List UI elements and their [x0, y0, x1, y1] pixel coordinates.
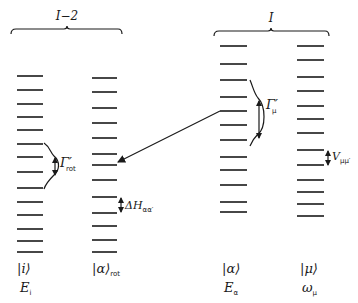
energy-alpha-label: Eα	[223, 280, 239, 297]
gamma-rot-label: Γ′rot	[59, 155, 76, 173]
brace-group-i-minus-2: I−2	[11, 9, 122, 34]
brace-group-i: I	[214, 11, 329, 36]
level-column-alpha-rot	[92, 78, 117, 252]
ket-i-label: |i⟩	[17, 261, 31, 276]
delta-h-label: ΔHαα′	[124, 199, 154, 214]
delta-h-spacing: ΔHαα′	[121, 198, 154, 214]
omega-mu-label: ωμ	[302, 280, 318, 297]
v-mumu-label: Vμμ′	[332, 150, 351, 165]
ket-mu-label: |μ⟩	[300, 261, 318, 276]
energy-levels	[17, 46, 324, 252]
lorentzian-rot: Γ′rot	[44, 143, 76, 189]
coupling-arrow	[118, 111, 220, 162]
gamma-mu-label: Γ′μ	[265, 97, 278, 115]
column-labels: |i⟩ Ei |α⟩rot |α⟩ Eα |μ⟩ ωμ	[17, 261, 318, 297]
lorentzian-mu: Γ′μ	[250, 80, 278, 146]
ket-alpha-rot-label: |α⟩rot	[92, 261, 120, 278]
brace-label-i: I	[268, 11, 274, 25]
brace-label-i-minus-2: I−2	[55, 9, 78, 23]
v-mumu-spacing: Vμμ′	[328, 150, 351, 165]
energy-level-diagram: I−2 I Γ′rot Γ′μ ΔHαα′ Vμμ′ |i⟩ Ei |α⟩rot…	[0, 0, 358, 303]
ket-alpha-label: |α⟩	[222, 261, 240, 276]
level-column-mu	[297, 46, 324, 216]
energy-i-label: Ei	[19, 280, 32, 297]
level-column-i	[17, 76, 43, 252]
level-column-alpha	[220, 46, 247, 212]
